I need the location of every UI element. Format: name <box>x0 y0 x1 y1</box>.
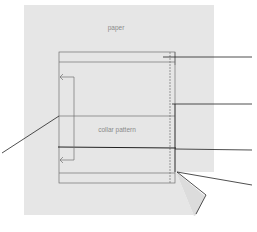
collar-pattern-diagram: paper collar pattern <box>0 0 257 232</box>
paper-label: paper <box>108 24 125 32</box>
collar-pattern-label: collar pattern <box>98 126 136 134</box>
